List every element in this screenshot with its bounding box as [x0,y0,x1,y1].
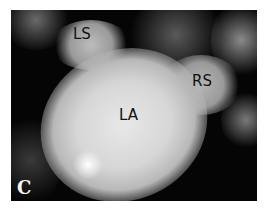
ct-scan-image: LS RS LA C [11,10,257,201]
label-rs: RS [192,74,212,89]
label-la: LA [119,108,138,123]
left-atrium-highlight [73,150,103,180]
label-ls: LS [73,27,91,42]
panel-letter: C [17,179,31,197]
